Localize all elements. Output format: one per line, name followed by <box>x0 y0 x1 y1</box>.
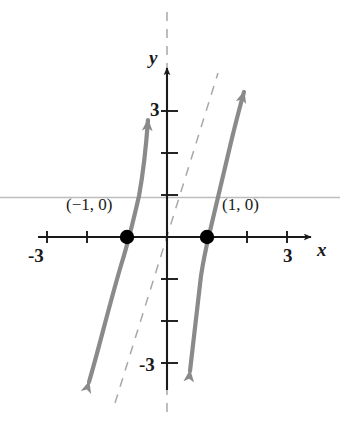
x-axis-label: x <box>317 240 327 259</box>
curve-right <box>190 92 244 371</box>
point-label-left: (−1, 0) <box>66 196 112 213</box>
graph-figure: -3 3 3 -3 x y (−1, 0) (1, 0) <box>0 0 340 430</box>
x-tick-label-neg3: -3 <box>28 246 44 265</box>
point-label-right: (1, 0) <box>222 196 259 213</box>
curve-left <box>89 120 148 382</box>
point-marker-left <box>120 230 134 244</box>
x-tick-label-pos3: 3 <box>283 246 293 265</box>
coordinate-plot <box>0 0 340 430</box>
y-tick-label-neg3: -3 <box>139 355 155 374</box>
y-tick-label-pos3: 3 <box>150 100 160 119</box>
y-axis-label: y <box>149 48 157 67</box>
point-marker-right <box>200 230 214 244</box>
